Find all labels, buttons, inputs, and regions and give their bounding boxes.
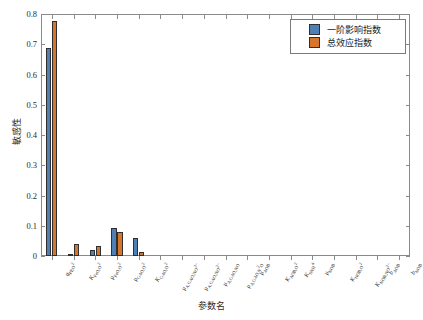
y-tick-mark-right — [406, 75, 410, 76]
x-tick-mark — [291, 256, 292, 260]
bar-series2 — [117, 232, 122, 256]
x-tick-mark — [182, 256, 183, 260]
y-tick-mark-right — [406, 105, 410, 106]
x-tick-mark — [52, 256, 53, 260]
x-tick-mark — [74, 256, 75, 260]
x-tick-mark-top — [247, 15, 248, 19]
bar-series1 — [133, 238, 138, 256]
x-tick-mark — [204, 256, 205, 260]
y-tick-mark-right — [406, 226, 410, 227]
x-tick-mark-top — [160, 15, 161, 19]
y-tick-mark — [41, 135, 45, 136]
y-tick-mark — [41, 14, 45, 15]
figure-canvas: 00.10.20.30.40.50.60.70.8 敏感性 参数名 一阶影响指数… — [0, 0, 423, 320]
bar-series1 — [111, 228, 116, 256]
x-tick-mark — [377, 256, 378, 260]
x-axis-label: 参数名 — [0, 299, 423, 312]
legend-item[interactable]: 总效应指数 — [295, 36, 401, 49]
y-tick-mark — [41, 105, 45, 106]
y-tick-label: 0 — [0, 251, 37, 261]
x-tick-mark — [356, 256, 357, 260]
bar-series1 — [46, 48, 51, 256]
legend-item[interactable]: 一阶影响指数 — [295, 23, 401, 36]
x-tick-mark-top — [204, 15, 205, 19]
y-tick-mark-right — [406, 14, 410, 15]
x-tick-mark — [139, 256, 140, 260]
x-tick-mark — [247, 256, 248, 260]
x-tick-mark-top — [269, 15, 270, 19]
legend-label-series2: 总效应指数 — [327, 36, 372, 49]
x-tick-mark-top — [95, 15, 96, 19]
y-tick-mark-right — [406, 196, 410, 197]
x-tick-mark-top — [334, 15, 335, 19]
x-tick-mark-top — [182, 15, 183, 19]
legend-swatch-series2 — [309, 37, 320, 48]
y-tick-label: 0.7 — [0, 39, 37, 49]
y-tick-mark — [41, 226, 45, 227]
bar-series2 — [139, 252, 144, 257]
x-tick-mark-top — [377, 15, 378, 19]
x-tick-mark — [117, 256, 118, 260]
x-tick-mark-top — [74, 15, 75, 19]
x-tick-mark-top — [399, 15, 400, 19]
x-tick-mark — [160, 256, 161, 260]
legend-label-series1: 一阶影响指数 — [327, 23, 381, 36]
bar-series2 — [52, 21, 57, 256]
x-tick-mark — [312, 256, 313, 260]
x-tick-mark-top — [291, 15, 292, 19]
y-tick-label: 0.8 — [0, 9, 37, 19]
x-tick-mark — [226, 256, 227, 260]
y-tick-mark-right — [406, 44, 410, 45]
x-tick-mark-top — [356, 15, 357, 19]
bar-series2 — [96, 246, 101, 256]
y-axis-label: 敏感性 — [10, 102, 23, 162]
y-tick-mark — [41, 44, 45, 45]
y-tick-label: 0.2 — [0, 191, 37, 201]
legend: 一阶影响指数 总效应指数 — [290, 19, 406, 54]
y-tick-label: 0.6 — [0, 70, 37, 80]
x-tick-mark — [334, 256, 335, 260]
y-tick-label: 0.3 — [0, 160, 37, 170]
x-tick-mark-top — [226, 15, 227, 19]
legend-swatch-series1 — [309, 24, 320, 35]
bar-series1 — [68, 254, 73, 256]
x-tick-mark — [269, 256, 270, 260]
x-tick-mark — [399, 256, 400, 260]
y-tick-mark — [41, 75, 45, 76]
x-tick-mark-top — [312, 15, 313, 19]
y-tick-mark-right — [406, 165, 410, 166]
x-tick-mark-top — [117, 15, 118, 19]
x-tick-mark-top — [52, 15, 53, 19]
bar-series1 — [90, 250, 95, 256]
bar-series2 — [74, 244, 79, 256]
x-tick-mark — [95, 256, 96, 260]
y-tick-mark-right — [406, 135, 410, 136]
x-tick-mark-top — [139, 15, 140, 19]
y-tick-mark — [41, 196, 45, 197]
y-tick-mark-right — [406, 256, 410, 257]
y-tick-label: 0.1 — [0, 221, 37, 231]
y-tick-mark — [41, 256, 45, 257]
y-tick-mark — [41, 165, 45, 166]
